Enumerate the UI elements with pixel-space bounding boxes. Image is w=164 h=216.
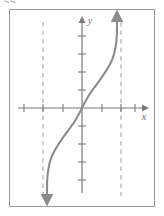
problem-number-label: 55.	[4, 0, 19, 3]
y-axis-label: y	[87, 15, 93, 26]
figure-root: 55.	[0, 0, 164, 216]
coordinate-plot: x y	[10, 10, 154, 206]
x-axis-label: x	[141, 111, 147, 122]
plot-frame: x y	[9, 9, 155, 207]
